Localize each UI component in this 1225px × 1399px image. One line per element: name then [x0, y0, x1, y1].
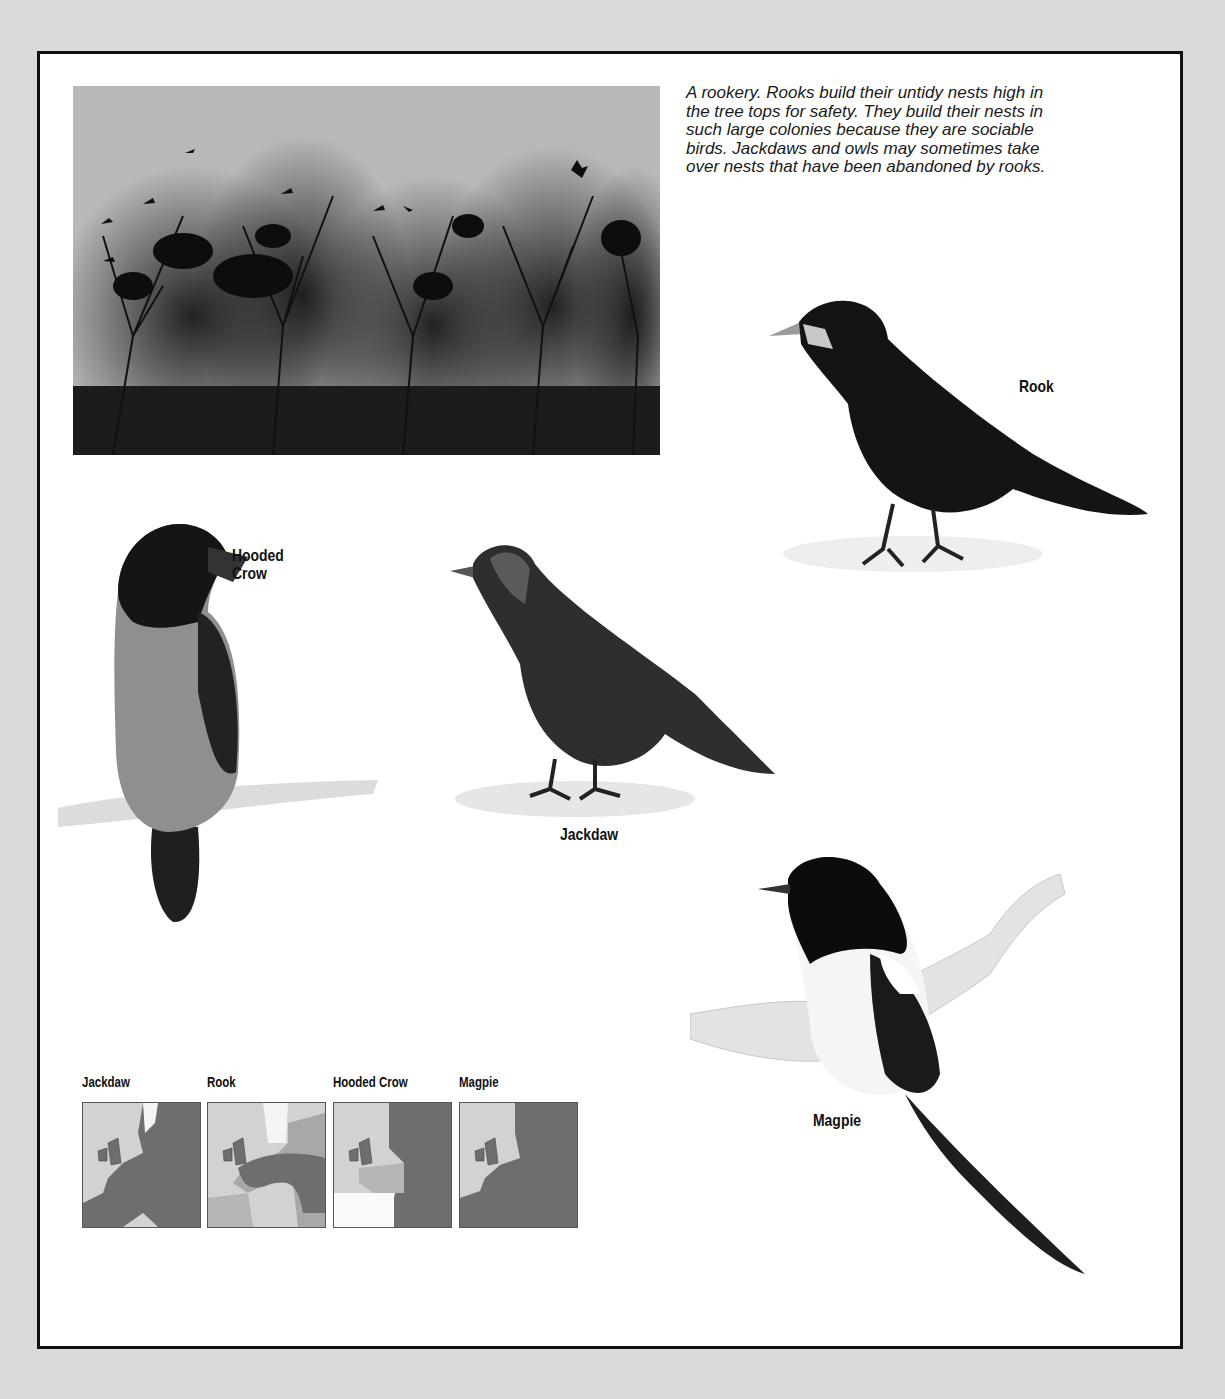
range-map-rook: Rook [207, 1074, 326, 1228]
hooded-crow-bird-icon [58, 512, 398, 932]
page-frame: A rookery. Rooks build their untidy nest… [37, 51, 1183, 1349]
rook-illustration [763, 284, 1153, 584]
magpie-illustration [690, 844, 1150, 1294]
range-map-jackdaw: Jackdaw [82, 1074, 201, 1228]
hooded-crow-label-line2: Crow [232, 565, 284, 583]
tree-silhouette-icon [73, 86, 660, 455]
magpie-label: Magpie [813, 1112, 861, 1130]
range-map-title: Rook [207, 1074, 305, 1092]
jackdaw-bird-icon [445, 534, 785, 824]
europe-map-icon [82, 1102, 201, 1228]
range-map-title: Hooded Crow [333, 1074, 431, 1092]
rook-bird-icon [763, 284, 1153, 584]
europe-map-icon [207, 1102, 326, 1228]
europe-map-icon [459, 1102, 578, 1228]
hooded-crow-label: Hooded Crow [232, 547, 284, 583]
range-map-title: Magpie [459, 1074, 557, 1092]
europe-map-icon [333, 1102, 452, 1228]
hooded-crow-label-line1: Hooded [232, 547, 284, 565]
hooded-crow-illustration [58, 512, 398, 932]
range-map-hooded-crow: Hooded Crow [333, 1074, 452, 1228]
range-map-magpie: Magpie [459, 1074, 578, 1228]
jackdaw-illustration [445, 534, 785, 824]
rookery-photo [73, 86, 660, 455]
photo-caption: A rookery. Rooks build their untidy nest… [686, 84, 1046, 177]
range-map-title: Jackdaw [82, 1074, 180, 1092]
rook-label: Rook [1019, 378, 1054, 396]
jackdaw-label: Jackdaw [560, 826, 618, 844]
magpie-bird-icon [690, 844, 1150, 1294]
